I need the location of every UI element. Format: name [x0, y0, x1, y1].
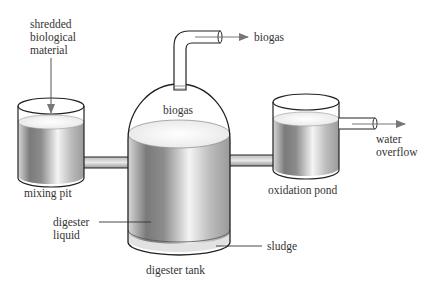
- outlet-pipe: [228, 155, 274, 166]
- overflow-pipe: [339, 118, 405, 129]
- gas-outlet-pipe: [174, 31, 248, 90]
- label-biogas-dome: biogas: [163, 104, 193, 117]
- label-digester-liquid: digester liquid: [53, 216, 89, 242]
- label-mixing-pit: mixing pit: [24, 187, 72, 200]
- inlet-pipe: [82, 157, 130, 168]
- label-oxidation-pond: oxidation pond: [268, 184, 337, 197]
- label-sludge: sludge: [267, 240, 297, 253]
- oxidation-pond: [273, 94, 339, 179]
- label-water-overflow: water overflow: [376, 133, 418, 159]
- label-digester-tank: digester tank: [146, 264, 205, 277]
- label-shredded-material: shredded biological material: [30, 18, 76, 57]
- label-biogas-output: biogas: [254, 31, 284, 44]
